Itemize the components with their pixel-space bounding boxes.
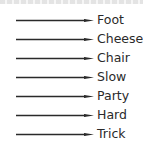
arrow-row-party: Party xyxy=(0,88,143,104)
right-arrow-icon xyxy=(16,19,96,22)
arrow-row-slow: Slow xyxy=(0,69,143,85)
item-label: Cheese xyxy=(97,31,143,47)
right-arrow-icon xyxy=(16,114,96,117)
item-label: Foot xyxy=(97,12,124,28)
item-label: Chair xyxy=(97,50,130,66)
arrow-row-cheese: Cheese xyxy=(0,31,143,47)
item-label: Slow xyxy=(97,69,126,85)
right-arrow-icon xyxy=(16,38,96,41)
cropped-header-text xyxy=(0,0,143,4)
arrow-row-foot: Foot xyxy=(0,12,143,28)
arrow-row-hard: Hard xyxy=(0,107,143,123)
arrow-row-chair: Chair xyxy=(0,50,143,66)
item-label: Hard xyxy=(97,107,127,123)
right-arrow-icon xyxy=(16,57,96,60)
right-arrow-icon xyxy=(16,95,96,98)
right-arrow-icon xyxy=(16,133,96,136)
right-arrow-icon xyxy=(16,76,96,79)
item-label: Party xyxy=(97,88,129,104)
item-label: Trick xyxy=(97,126,126,142)
arrow-row-trick: Trick xyxy=(0,126,143,142)
